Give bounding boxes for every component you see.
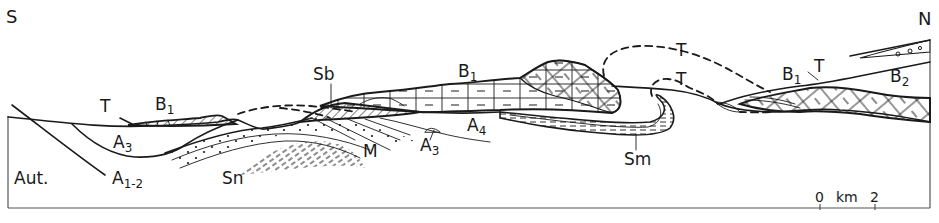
label-m: M bbox=[363, 143, 378, 160]
label-a3-left: A3 bbox=[113, 134, 132, 154]
label-b1-right: B1 bbox=[782, 66, 801, 86]
label-t-left: T bbox=[100, 98, 110, 115]
label-t-upper: T bbox=[676, 42, 686, 59]
label-b1-left: B1 bbox=[155, 96, 174, 116]
direction-north-label: N bbox=[918, 10, 931, 28]
sn-unit bbox=[240, 141, 365, 175]
label-sb: Sb bbox=[313, 66, 335, 83]
label-a3-mid: A3 bbox=[420, 137, 439, 157]
label-b2: B2 bbox=[890, 68, 909, 88]
scale-end-label: 2 bbox=[870, 190, 879, 204]
t-upper-trace bbox=[603, 46, 770, 92]
b1-left-unit bbox=[128, 115, 236, 126]
label-sm: Sm bbox=[624, 151, 651, 168]
label-a4: A4 bbox=[467, 117, 486, 137]
direction-south-label: S bbox=[6, 8, 17, 26]
label-t-lower: T bbox=[676, 71, 686, 88]
label-b1-mid: B1 bbox=[458, 63, 477, 83]
scale-unit-label: km bbox=[836, 190, 858, 204]
label-t-right: T bbox=[814, 58, 824, 75]
label-sn: Sn bbox=[222, 170, 244, 187]
scale-start-label: 0 bbox=[815, 190, 824, 204]
b1-right-unit bbox=[740, 87, 930, 122]
label-aut: Aut. bbox=[14, 170, 48, 187]
label-a1-2: A1-2 bbox=[112, 170, 143, 190]
